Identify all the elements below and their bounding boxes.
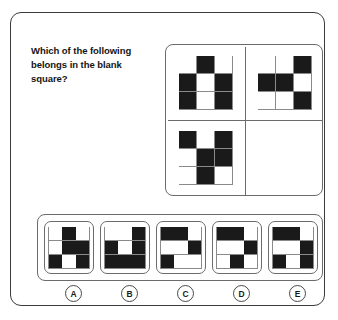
question-text: Which of the following belongs in the bl… [31, 44, 161, 87]
grid-cell-r3c3 [244, 255, 257, 268]
grid-cell-r2c1 [179, 149, 196, 166]
grid-cell-r3c1 [105, 255, 118, 268]
grid-cell-r1c2 [197, 131, 214, 148]
grid-cell-r1c3 [188, 227, 201, 240]
grid-cell-r3c2 [230, 255, 243, 268]
grid-cell-r3c3 [215, 92, 232, 109]
matrix-cell-top-left [166, 45, 245, 120]
matrix-cell-bottom-right-blank [245, 120, 324, 195]
grid-cell-r1c2 [174, 227, 187, 240]
option-letter-a[interactable]: A [65, 285, 82, 302]
pattern-grid [179, 56, 233, 110]
grid-cell-r2c3 [76, 241, 89, 254]
grid-cell-r2c3 [132, 241, 145, 254]
grid-cell-r2c1 [161, 241, 174, 254]
pattern-grid [48, 227, 90, 269]
option-letter-c[interactable]: C [177, 285, 194, 302]
matrix-cell-top-right [245, 45, 324, 120]
grid-cell-r3c3 [300, 255, 313, 268]
matrix-cell-bottom-left [166, 120, 245, 195]
options-panel [37, 214, 323, 281]
grid-cell-r1c1 [258, 56, 275, 73]
grid-cell-r2c3 [300, 241, 313, 254]
option-letter-e[interactable]: E [289, 285, 306, 302]
grid-cell-r1c2 [276, 56, 293, 73]
pattern-grid [258, 56, 312, 110]
grid-cell-r2c2 [174, 241, 187, 254]
grid-cell-r1c1 [217, 227, 230, 240]
grid-cell-r3c3 [294, 92, 311, 109]
grid-cell-r2c2 [62, 241, 75, 254]
grid-cell-r1c1 [161, 227, 174, 240]
grid-cell-r3c1 [217, 255, 230, 268]
grid-cell-r3c2 [197, 167, 214, 184]
option-d[interactable] [212, 221, 262, 274]
grid-cell-r2c3 [215, 74, 232, 91]
grid-cell-r1c1 [179, 56, 196, 73]
option-c[interactable] [156, 221, 206, 274]
grid-cell-r1c1 [179, 131, 196, 148]
grid-cell-r1c3 [215, 131, 232, 148]
grid-cell-r2c2 [276, 74, 293, 91]
grid-cell-r2c1 [105, 241, 118, 254]
grid-cell-r1c3 [300, 227, 313, 240]
grid-cell-r1c1 [105, 227, 118, 240]
grid-cell-r3c1 [273, 255, 286, 268]
grid-cell-r1c2 [62, 227, 75, 240]
grid-cell-r1c1 [273, 227, 286, 240]
grid-cell-r2c2 [286, 241, 299, 254]
grid-cell-r3c2 [197, 92, 214, 109]
grid-cell-r2c3 [244, 241, 257, 254]
pattern-grid [272, 227, 314, 269]
grid-cell-r1c3 [215, 56, 232, 73]
pattern-grid [160, 227, 202, 269]
grid-cell-r1c2 [197, 56, 214, 73]
matrix-panel [165, 44, 323, 196]
pattern-grid [104, 227, 146, 269]
grid-cell-r3c1 [179, 167, 196, 184]
grid-cell-r3c1 [49, 255, 62, 268]
option-a[interactable] [44, 221, 94, 274]
grid-cell-r1c3 [76, 227, 89, 240]
grid-cell-r1c2 [118, 227, 131, 240]
grid-cell-r3c3 [188, 255, 201, 268]
grid-cell-r1c3 [244, 227, 257, 240]
grid-cell-r2c1 [258, 74, 275, 91]
pattern-grid [179, 131, 233, 185]
option-letter-b[interactable]: B [121, 285, 138, 302]
grid-cell-r2c2 [230, 241, 243, 254]
grid-cell-r3c2 [286, 255, 299, 268]
grid-cell-r2c1 [49, 241, 62, 254]
grid-cell-r2c1 [273, 241, 286, 254]
grid-cell-r2c1 [179, 74, 196, 91]
grid-cell-r3c3 [215, 167, 232, 184]
grid-cell-r3c1 [161, 255, 174, 268]
grid-cell-r3c2 [62, 255, 75, 268]
grid-cell-r1c2 [230, 227, 243, 240]
grid-cell-r3c3 [132, 255, 145, 268]
grid-cell-r3c1 [258, 92, 275, 109]
grid-cell-r1c1 [49, 227, 62, 240]
puzzle-card: Which of the following belongs in the bl… [10, 12, 325, 306]
grid-cell-r1c3 [294, 56, 311, 73]
grid-cell-r3c2 [174, 255, 187, 268]
grid-cell-r2c2 [197, 149, 214, 166]
pattern-grid [216, 227, 258, 269]
grid-cell-r2c2 [118, 241, 131, 254]
grid-cell-r3c1 [179, 92, 196, 109]
grid-cell-r1c2 [286, 227, 299, 240]
option-b[interactable] [100, 221, 150, 274]
grid-cell-r3c2 [118, 255, 131, 268]
option-e[interactable] [268, 221, 318, 274]
grid-cell-r2c3 [188, 241, 201, 254]
grid-cell-r3c3 [76, 255, 89, 268]
grid-cell-r2c3 [215, 149, 232, 166]
grid-cell-r2c2 [197, 74, 214, 91]
grid-cell-r1c3 [132, 227, 145, 240]
grid-cell-r3c2 [276, 92, 293, 109]
grid-cell-r2c1 [217, 241, 230, 254]
option-letter-d[interactable]: D [233, 285, 250, 302]
grid-cell-r2c3 [294, 74, 311, 91]
